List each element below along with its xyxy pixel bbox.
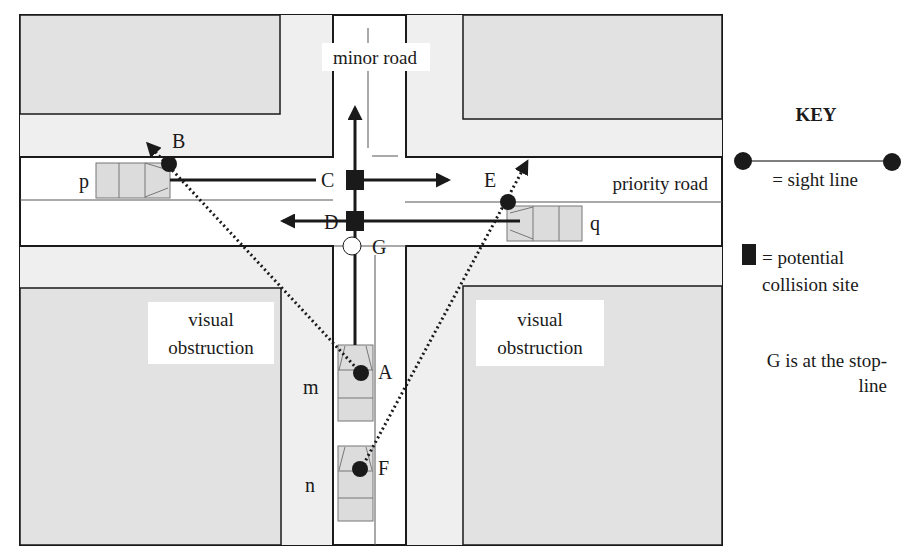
priority-road-label: priority road [612, 173, 708, 194]
label-C: C [321, 169, 334, 191]
junction-diagram: minor road priority road visual obstruct… [0, 0, 915, 558]
vehicle-m [338, 345, 373, 421]
sight-line-dot-right-icon [883, 153, 901, 171]
point-F-marker [352, 461, 368, 477]
collision-site-D [346, 211, 364, 231]
point-G-marker [343, 237, 361, 255]
key-collision-1: = potential [762, 247, 844, 268]
label-F: F [378, 457, 389, 479]
key-title: KEY [795, 104, 836, 125]
label-G: G [372, 236, 386, 258]
label-D: D [324, 211, 338, 233]
label-m: m [303, 376, 319, 398]
collision-site-C [346, 170, 364, 190]
obstruction-left-line1: visual [188, 309, 233, 330]
label-A: A [378, 361, 393, 383]
key-note-1: G is at the stop- [767, 350, 887, 371]
key-note-2: line [859, 375, 888, 396]
key-collision-2: collision site [762, 274, 859, 295]
point-A-marker [353, 365, 369, 381]
label-E: E [484, 169, 496, 191]
minor-road-label: minor road [333, 47, 417, 68]
label-B: B [172, 130, 185, 152]
key-legend: KEY = sight line = potential collision s… [734, 104, 901, 396]
vehicle-q [507, 206, 582, 241]
label-p: p [79, 170, 89, 193]
label-q: q [590, 212, 600, 235]
building-top-right [463, 15, 722, 119]
obstruction-right-line2: obstruction [497, 337, 583, 358]
sight-line-dot-left-icon [734, 152, 752, 170]
obstruction-left-line2: obstruction [168, 337, 254, 358]
key-sight-line: = sight line [772, 169, 858, 190]
vehicle-p [96, 163, 170, 198]
point-E-marker [500, 194, 516, 210]
point-B-marker [161, 156, 177, 172]
vehicle-n [338, 446, 373, 521]
collision-site-icon [742, 244, 756, 265]
label-n: n [305, 474, 315, 496]
building-top-left [20, 15, 280, 114]
obstruction-right-line1: visual [517, 309, 562, 330]
